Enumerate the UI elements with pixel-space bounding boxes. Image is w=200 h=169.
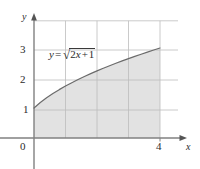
x-axis-label: x (186, 142, 190, 152)
y-axis-tick-label-1: 1 (23, 104, 29, 115)
radicand-variable: x (76, 48, 81, 60)
radicand-plus-sign: + (81, 48, 89, 60)
equation-equals-sign: = (54, 48, 62, 60)
function-plot-figure: y x 3 2 1 0 4 y=√2x+1 (0, 0, 200, 169)
y-axis-tick-label-2: 2 (20, 74, 26, 85)
origin-label: 0 (20, 141, 26, 152)
y-axis-arrow-icon (31, 13, 37, 21)
radicand-constant: 1 (89, 48, 95, 60)
radical-expression: √2x+1 (62, 48, 95, 61)
y-axis-label: y (22, 12, 26, 22)
equation-annotation: y=√2x+1 (49, 48, 95, 61)
radicand: 2x+1 (69, 48, 95, 60)
x-axis-tick-label-4: 4 (156, 141, 162, 152)
y-axis-tick-label-3: 3 (20, 44, 26, 55)
plot-canvas (0, 0, 200, 169)
